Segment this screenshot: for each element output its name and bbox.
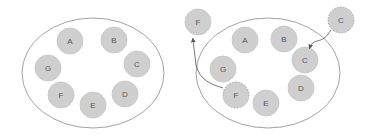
node-label: C xyxy=(302,56,308,65)
node-label: E xyxy=(263,99,268,108)
node-g: G xyxy=(210,56,236,82)
node-label: E xyxy=(90,101,95,110)
node-c: C xyxy=(124,51,150,77)
node-label: A xyxy=(242,36,248,45)
after-diagram: F A B C C G F E xyxy=(185,7,354,128)
node-f: F xyxy=(48,82,74,108)
node-label: G xyxy=(45,64,51,73)
node-label: B xyxy=(111,36,116,45)
node-label: F xyxy=(196,18,201,27)
node-c: C xyxy=(292,47,318,73)
node-a: A xyxy=(57,28,83,54)
node-d: D xyxy=(288,75,314,101)
node-f-dashed: F xyxy=(223,82,249,108)
node-label: F xyxy=(59,91,64,100)
node-d: D xyxy=(112,81,138,107)
node-label: B xyxy=(281,35,286,44)
node-b: B xyxy=(271,26,297,52)
diagram-canvas: A B C D E F G F xyxy=(0,0,372,138)
node-label: D xyxy=(122,90,128,99)
node-e: E xyxy=(80,92,106,118)
before-diagram: A B C D E F G xyxy=(22,18,164,128)
node-c-outside-dashed: C xyxy=(328,7,354,33)
node-g: G xyxy=(35,55,61,81)
node-label: C xyxy=(338,16,344,25)
node-label: A xyxy=(67,37,73,46)
node-label: D xyxy=(298,84,304,93)
c-move-arrow xyxy=(310,30,331,47)
node-label: G xyxy=(220,65,226,74)
node-b: B xyxy=(101,27,127,53)
node-e: E xyxy=(253,90,279,116)
node-label: F xyxy=(234,91,239,100)
node-f-outside: F xyxy=(185,9,211,35)
node-label: C xyxy=(134,60,140,69)
node-a: A xyxy=(232,27,258,53)
